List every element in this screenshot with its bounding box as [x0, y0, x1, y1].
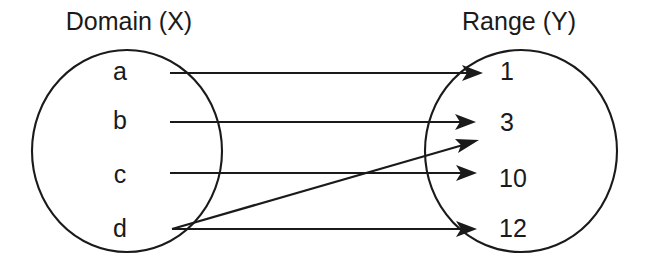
mapping-diagram: Domain (X) Range (Y) — [0, 0, 648, 263]
range-title: Range (Y) — [462, 7, 576, 35]
domain-element-b: b — [113, 106, 127, 134]
range-element-3: 3 — [500, 108, 514, 136]
mapping-arrow-a-to-1 — [170, 65, 483, 81]
domain-element-d: d — [113, 214, 127, 242]
domain-title: Domain (X) — [66, 7, 192, 35]
range-element-12: 12 — [499, 214, 527, 242]
range-element-1: 1 — [500, 57, 514, 85]
range-element-10: 10 — [499, 164, 527, 192]
mapping-arrow-d-to-12 — [172, 221, 477, 237]
domain-element-c: c — [114, 160, 127, 188]
diagram-canvas: Domain (X) Range (Y) — [0, 0, 648, 263]
domain-element-a: a — [113, 57, 127, 85]
